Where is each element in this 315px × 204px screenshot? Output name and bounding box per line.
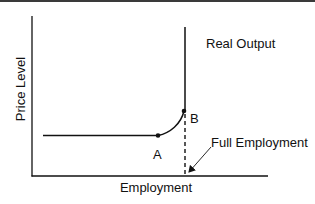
curve-label: Real Output (206, 36, 276, 51)
point-b-marker (182, 109, 187, 114)
full-employment-arrow (189, 147, 211, 172)
real-output-curve (43, 27, 185, 136)
point-a-label: A (153, 147, 162, 162)
aggregate-supply-chart: Real Output B A Full Employment Employme… (0, 0, 315, 204)
x-axis-label: Employment (120, 180, 193, 195)
point-a-marker (156, 133, 161, 138)
full-employment-label: Full Employment (211, 135, 308, 150)
chart-svg: Real Output B A Full Employment Employme… (0, 0, 315, 204)
y-axis-label: Price Level (13, 57, 28, 121)
top-border (0, 0, 315, 2)
point-b-label: B (190, 111, 199, 126)
